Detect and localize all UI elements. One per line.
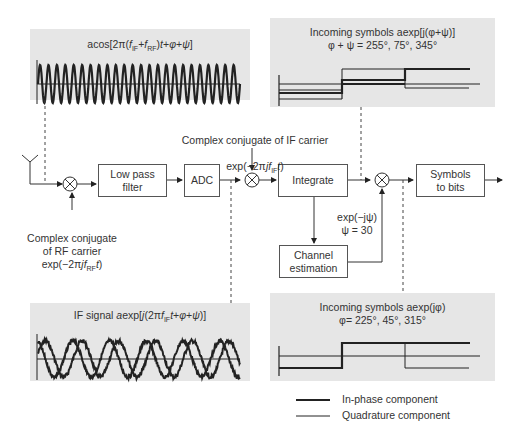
low-pass-filter-block: Low pass filter (98, 164, 167, 197)
symbols-corrected-plot (279, 343, 480, 376)
rf-conjugate-label: Complex conjugateof RF carrierexp(−2πjfR… (22, 219, 122, 275)
if-waveform (37, 334, 240, 380)
symbols-to-bits-block: Symbols to bits (416, 164, 485, 197)
phase-correction-label: exp(−jψ) ψ = 30 (332, 211, 382, 237)
rf-mixer-icon (63, 177, 77, 191)
symbols-rotated-plot (279, 69, 480, 106)
legend-quadrature: Quadrature component (342, 409, 450, 421)
rf-waveform (37, 60, 240, 104)
channel-estimation-block: Channel estimation (279, 245, 348, 278)
legend-in-phase: In-phase component (342, 393, 438, 405)
if-conjugate-label: Complex conjugate of IF carrier exp(−2πj… (170, 121, 340, 190)
phase-mixer-icon (375, 173, 389, 187)
antenna-icon (22, 155, 62, 184)
